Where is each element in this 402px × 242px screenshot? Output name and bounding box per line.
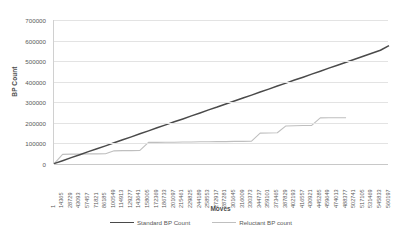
gridline	[54, 41, 388, 42]
y-axis-tick-label: 400000	[25, 78, 46, 85]
legend-line-icon-standard	[110, 222, 134, 223]
y-axis-tick-label: 0	[43, 161, 46, 168]
chart-legend: Standard BP Count Reluctant BP count	[0, 219, 402, 226]
legend-label-standard: Standard BP Count	[137, 219, 190, 226]
gridline	[54, 82, 388, 83]
gridline	[54, 143, 388, 144]
gridline	[54, 20, 388, 21]
plot-svg	[54, 20, 389, 164]
y-axis-tick-label: 300000	[25, 99, 46, 106]
y-axis-tick-label: 600000	[25, 37, 46, 44]
y-axis-tick-label: 700000	[25, 17, 46, 24]
legend-item-standard-bp-count[interactable]: Standard BP Count	[110, 219, 190, 226]
legend-label-reluctant: Reluctant BP count	[239, 219, 292, 226]
y-axis-tick-labels: 0100000200000300000400000500000600000700…	[0, 0, 50, 170]
chart-container: BP Count 0100000200000300000400000500000…	[0, 0, 402, 242]
series-reluctant-bp-count	[54, 118, 346, 164]
x-axis-title: Moves	[53, 205, 388, 212]
y-axis-tick-label: 500000	[25, 58, 46, 65]
legend-item-reluctant-bp-count[interactable]: Reluctant BP count	[212, 219, 292, 226]
y-axis-tick-label: 100000	[25, 140, 46, 147]
gridline	[54, 61, 388, 62]
series-standard-bp-count	[54, 46, 389, 164]
x-axis-tick-labels: 1143652872943093574577182186185100549114…	[53, 164, 388, 208]
gridline	[54, 123, 388, 124]
plot-area	[53, 20, 388, 164]
legend-line-icon-reluctant	[212, 222, 236, 223]
y-axis-tick-label: 200000	[25, 119, 46, 126]
gridline	[54, 102, 388, 103]
